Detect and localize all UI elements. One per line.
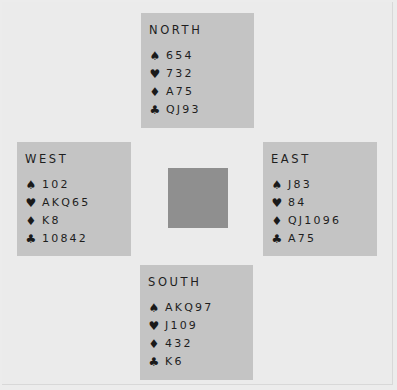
hand-label: NORTH	[149, 23, 254, 37]
spade-cards: AKQ97	[165, 299, 213, 317]
club-icon: ♣	[148, 353, 160, 371]
heart-cards: AKQ65	[42, 194, 90, 212]
diamond-cards: QJ1096	[288, 212, 341, 230]
spade-icon: ♠	[148, 299, 160, 317]
hand-north: NORTH ♠654 ♥732 ♦A75 ♣QJ93	[141, 13, 254, 128]
spade-cards: J83	[288, 176, 312, 194]
spade-icon: ♠	[271, 176, 283, 194]
suit-row-clubs: ♣K6	[148, 353, 253, 371]
suit-row-hearts: ♥AKQ65	[25, 194, 131, 212]
heart-icon: ♥	[148, 317, 160, 335]
spade-cards: 654	[166, 47, 194, 65]
suit-row-clubs: ♣10842	[25, 230, 131, 248]
club-icon: ♣	[149, 101, 161, 119]
hand-label: WEST	[25, 152, 131, 166]
hand-west: WEST ♠102 ♥AKQ65 ♦K8 ♣10842	[17, 142, 131, 256]
spade-cards: 102	[42, 176, 70, 194]
heart-cards: 732	[166, 65, 194, 83]
club-icon: ♣	[271, 230, 283, 248]
club-cards: 10842	[42, 230, 88, 248]
suit-row-spades: ♠102	[25, 176, 131, 194]
suit-row-spades: ♠AKQ97	[148, 299, 253, 317]
suit-row-diamonds: ♦QJ1096	[271, 212, 377, 230]
heart-cards: J109	[165, 317, 198, 335]
club-cards: A75	[288, 230, 316, 248]
heart-icon: ♥	[271, 194, 283, 212]
hand-label: EAST	[271, 152, 377, 166]
diamond-icon: ♦	[271, 212, 283, 230]
suit-row-clubs: ♣A75	[271, 230, 377, 248]
suit-row-diamonds: ♦432	[148, 335, 253, 353]
spade-icon: ♠	[149, 47, 161, 65]
club-icon: ♣	[25, 230, 37, 248]
diamond-icon: ♦	[25, 212, 37, 230]
club-cards: K6	[165, 353, 184, 371]
heart-icon: ♥	[149, 65, 161, 83]
suit-row-hearts: ♥J109	[148, 317, 253, 335]
diamond-icon: ♦	[148, 335, 160, 353]
suit-row-hearts: ♥732	[149, 65, 254, 83]
diamond-icon: ♦	[149, 83, 161, 101]
heart-cards: 84	[288, 194, 306, 212]
diamond-cards: K8	[42, 212, 61, 230]
suit-row-spades: ♠J83	[271, 176, 377, 194]
hand-east: EAST ♠J83 ♥84 ♦QJ1096 ♣A75	[263, 142, 377, 256]
diamond-cards: 432	[165, 335, 193, 353]
club-cards: QJ93	[166, 101, 201, 119]
table-center	[168, 168, 228, 228]
hand-south: SOUTH ♠AKQ97 ♥J109 ♦432 ♣K6	[140, 265, 253, 380]
suit-row-diamonds: ♦A75	[149, 83, 254, 101]
diamond-cards: A75	[166, 83, 194, 101]
suit-row-spades: ♠654	[149, 47, 254, 65]
spade-icon: ♠	[25, 176, 37, 194]
suit-row-hearts: ♥84	[271, 194, 377, 212]
suit-row-diamonds: ♦K8	[25, 212, 131, 230]
hand-label: SOUTH	[148, 275, 253, 289]
suit-row-clubs: ♣QJ93	[149, 101, 254, 119]
heart-icon: ♥	[25, 194, 37, 212]
